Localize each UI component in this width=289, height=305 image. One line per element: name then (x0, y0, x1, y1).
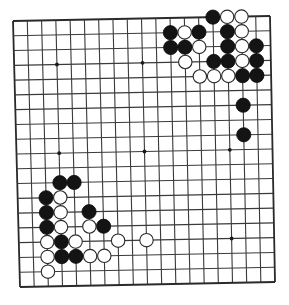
star-point-icon (228, 148, 232, 152)
go-board[interactable] (0, 0, 289, 305)
black-stone[interactable] (220, 25, 234, 39)
white-stone[interactable] (41, 265, 54, 278)
white-stone[interactable] (193, 40, 206, 53)
black-stone[interactable] (206, 10, 220, 24)
white-stone[interactable] (111, 234, 124, 247)
white-stone[interactable] (236, 54, 249, 67)
go-board-canvas[interactable] (0, 0, 289, 305)
white-stone[interactable] (54, 220, 67, 233)
white-stone[interactable] (140, 233, 153, 246)
black-stone[interactable] (69, 249, 83, 263)
white-stone[interactable] (178, 26, 191, 39)
white-stone[interactable] (220, 10, 233, 23)
black-stone[interactable] (39, 191, 53, 205)
white-stone[interactable] (98, 249, 111, 262)
black-stone[interactable] (192, 25, 206, 39)
black-stone[interactable] (178, 40, 192, 54)
white-stone[interactable] (235, 25, 248, 38)
black-stone[interactable] (40, 220, 54, 234)
black-stone[interactable] (236, 98, 250, 112)
star-point-icon (57, 151, 61, 155)
black-stone[interactable] (207, 54, 221, 68)
star-point-icon (55, 63, 59, 67)
white-stone[interactable] (41, 250, 54, 263)
white-stone[interactable] (222, 69, 235, 82)
black-stone[interactable] (250, 68, 264, 82)
black-stone[interactable] (249, 54, 263, 68)
black-stone[interactable] (82, 205, 96, 219)
black-stone[interactable] (39, 205, 53, 219)
white-stone[interactable] (207, 70, 220, 83)
white-stone[interactable] (83, 220, 96, 233)
star-point-icon (230, 237, 234, 241)
black-stone[interactable] (55, 250, 69, 264)
white-stone[interactable] (179, 55, 192, 68)
black-stone[interactable] (54, 235, 68, 249)
white-stone[interactable] (235, 39, 248, 52)
black-stone[interactable] (236, 69, 250, 83)
white-stone[interactable] (69, 235, 82, 248)
black-stone[interactable] (164, 40, 178, 54)
star-points (55, 59, 233, 243)
black-stone[interactable] (53, 176, 67, 190)
white-stone[interactable] (193, 70, 206, 83)
black-stone[interactable] (96, 219, 110, 233)
black-stone[interactable] (163, 26, 177, 40)
white-stone[interactable] (54, 191, 67, 204)
black-stone[interactable] (237, 128, 251, 142)
black-stone[interactable] (221, 39, 235, 53)
star-point-icon (141, 61, 145, 65)
black-stone[interactable] (221, 54, 235, 68)
white-stone[interactable] (41, 235, 54, 248)
white-stone[interactable] (54, 206, 67, 219)
black-stone[interactable] (249, 39, 263, 53)
black-stone[interactable] (67, 175, 81, 189)
white-stone[interactable] (235, 10, 248, 23)
white-stone[interactable] (83, 249, 96, 262)
star-point-icon (143, 150, 147, 154)
